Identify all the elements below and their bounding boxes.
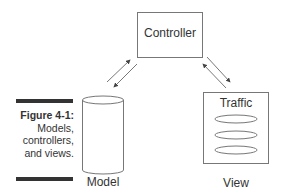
controller-view-arrows — [203, 57, 230, 88]
caption-top-bar — [16, 99, 73, 103]
model-controller-arrows — [107, 60, 137, 87]
figure-caption: Figure 4-1: Models, controllers, and vie… — [10, 109, 74, 159]
caption-bottom-bar — [16, 177, 73, 181]
caption-line: Models, — [10, 122, 74, 135]
controller-label: Controller — [137, 26, 203, 40]
model-label: Model — [82, 175, 124, 189]
view-label: View — [203, 176, 269, 190]
traffic-item-1 — [215, 115, 257, 123]
model-cylinder — [83, 96, 124, 174]
caption-line: and views. — [10, 147, 74, 160]
traffic-item-3 — [215, 146, 257, 154]
caption-line: controllers, — [10, 134, 74, 147]
traffic-item-2 — [215, 131, 257, 139]
figure-number: Figure 4-1: — [10, 109, 74, 122]
traffic-label: Traffic — [203, 96, 269, 110]
